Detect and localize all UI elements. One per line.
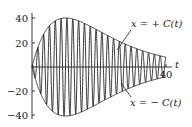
x-axis-label: t <box>175 59 180 70</box>
y-tick-label-20: 20 <box>15 38 28 49</box>
y-tick-label-n40: −40 <box>7 110 28 121</box>
upper-label-leader <box>117 30 131 50</box>
y-tick-label-40: 40 <box>15 13 28 24</box>
lower-envelope-label: x = − C(t) <box>130 97 182 108</box>
x-tick-label-40: 40 <box>160 69 173 80</box>
chart: 40 20 −20 −40 40 t x = + C(t) x = − C(t) <box>0 0 192 127</box>
y-tick-label-n20: −20 <box>7 86 28 97</box>
upper-envelope-label: x = + C(t) <box>131 18 183 29</box>
